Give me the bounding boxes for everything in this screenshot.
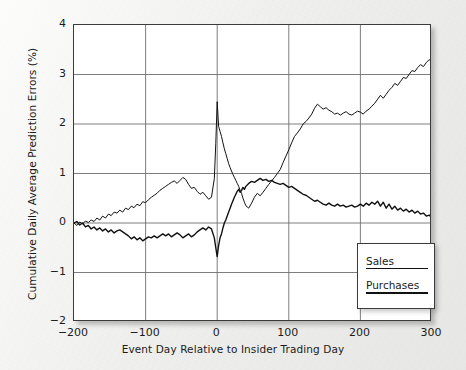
x-tick--200: −200 (48, 326, 98, 339)
series-lines (74, 60, 431, 257)
x-tick-300: 300 (406, 326, 456, 339)
legend-label-purchases: Purchases (366, 279, 428, 291)
chart-legend: Sales Purchases (357, 243, 435, 309)
x-tick--100: −100 (120, 326, 170, 339)
y-tick-0: 0 (30, 215, 66, 228)
x-tick-200: 200 (334, 326, 384, 339)
legend-line-sales (366, 268, 428, 269)
y-tick-3: 3 (30, 67, 66, 80)
x-tick-100: 100 (263, 326, 313, 339)
x-axis-title: Event Day Relative to Insider Trading Da… (0, 343, 466, 355)
legend-label-sales: Sales (366, 255, 428, 267)
y-tick-4: 4 (30, 17, 66, 30)
y-tick-2: 2 (30, 116, 66, 129)
legend-line-purchases (366, 292, 428, 294)
legend-entry-purchases: Purchases (366, 279, 428, 294)
y-tick-1: 1 (30, 166, 66, 179)
chart-figure: Cumulative Daily Average Prediction Erro… (0, 0, 466, 370)
y-tick--1: −1 (30, 265, 66, 278)
legend-entry-sales: Sales (366, 255, 428, 269)
x-tick-0: 0 (191, 326, 241, 339)
